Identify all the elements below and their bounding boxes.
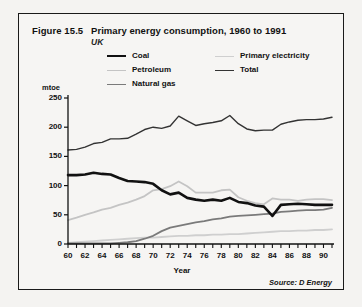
y-axis-tick-label: 200 bbox=[40, 122, 62, 131]
x-axis-tick-label: 82 bbox=[247, 251, 263, 260]
legend-swatch-petroleum bbox=[107, 70, 126, 71]
x-axis-tick-label: 68 bbox=[128, 251, 144, 260]
x-axis-tick-label: 88 bbox=[298, 251, 314, 260]
y-axis-unit-label: mtoe bbox=[42, 83, 60, 92]
legend-item-petroleum: Petroleum bbox=[107, 66, 171, 74]
x-axis-tick-label: 66 bbox=[111, 251, 127, 260]
y-axis-tick-label: 50 bbox=[40, 210, 62, 219]
x-axis-tick-label: 80 bbox=[230, 251, 246, 260]
legend-swatch-coal bbox=[107, 55, 126, 57]
figure-number: Figure 15.5 bbox=[32, 25, 83, 36]
legend-item-primary-electricity: Primary electricity bbox=[215, 52, 309, 60]
x-axis-tick-label: 78 bbox=[213, 251, 229, 260]
x-axis-tick-label: 62 bbox=[77, 251, 93, 260]
y-axis-tick-label: 100 bbox=[40, 181, 62, 190]
y-axis-tick-label: 150 bbox=[40, 151, 62, 160]
x-axis-tick-label: 60 bbox=[60, 251, 76, 260]
x-axis-tick-label: 76 bbox=[196, 251, 212, 260]
series-line-coal bbox=[68, 173, 332, 216]
figure-subtitle: UK bbox=[91, 37, 103, 47]
legend-label-primary-electricity: Primary electricity bbox=[240, 52, 309, 60]
figure-container: Figure 15.5 Primary energy consumption, … bbox=[18, 13, 344, 290]
legend-swatch-primary-electricity bbox=[215, 56, 234, 57]
chart-legend: Coal Petroleum Natural gas Primary elect… bbox=[107, 52, 335, 94]
x-axis-tick-label: 74 bbox=[179, 251, 195, 260]
x-axis-title: Year bbox=[19, 266, 345, 275]
x-axis-tick-label: 86 bbox=[281, 251, 297, 260]
x-axis-tick-label: 90 bbox=[315, 251, 331, 260]
legend-item-natural-gas: Natural gas bbox=[107, 80, 176, 88]
legend-swatch-total bbox=[215, 70, 234, 71]
series-line-total bbox=[68, 116, 332, 150]
legend-swatch-natural-gas bbox=[107, 84, 126, 85]
x-axis-tick-label: 70 bbox=[145, 251, 161, 260]
legend-item-total: Total bbox=[215, 66, 259, 74]
x-axis-tick-label: 72 bbox=[162, 251, 178, 260]
legend-label-coal: Coal bbox=[132, 52, 149, 60]
x-axis-tick-label: 64 bbox=[94, 251, 110, 260]
legend-label-petroleum: Petroleum bbox=[132, 66, 171, 74]
legend-item-coal: Coal bbox=[107, 52, 149, 60]
legend-label-total: Total bbox=[240, 66, 259, 74]
series-line-petroleum bbox=[68, 182, 332, 221]
x-axis-tick-label: 84 bbox=[264, 251, 280, 260]
y-axis-tick-label: 0 bbox=[40, 239, 62, 248]
page-title: Primary energy consumption, 1960 to 1991 bbox=[91, 25, 286, 36]
series-line-natural-gas bbox=[68, 208, 332, 244]
series-line-primary-electricity bbox=[68, 229, 332, 242]
y-axis-tick-label: 250 bbox=[40, 93, 62, 102]
source-note: Source: D Energy bbox=[269, 278, 332, 287]
legend-label-natural-gas: Natural gas bbox=[132, 80, 176, 88]
